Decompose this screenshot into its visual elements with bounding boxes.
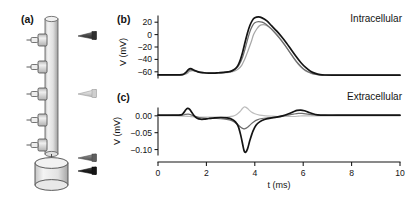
marker-proximal-gray	[78, 154, 97, 162]
panel-c-label: (c)	[117, 91, 130, 103]
soma-cylinder	[35, 154, 68, 190]
electrode-array	[27, 34, 48, 151]
panel-c-tick-label: −0.10	[130, 145, 152, 155]
x-tick-label: 4	[252, 168, 257, 178]
panel-c-y-ticks: 0.00−0.05−0.10	[130, 111, 158, 155]
electrode-3	[27, 88, 48, 100]
trace-mid-gray	[158, 22, 400, 76]
panel-b-label: (b)	[117, 13, 130, 25]
marker-mid-light	[78, 90, 97, 98]
extracellular-annotation: Extracellular	[347, 91, 403, 102]
marker-distal-dark	[78, 32, 97, 40]
trace-soma-black	[158, 17, 400, 75]
panel-c-tick-label: 0.00	[135, 111, 152, 121]
x-tick-label: 0	[156, 168, 161, 178]
electrode-2	[27, 61, 48, 73]
panel-b-tick-label: −40	[137, 54, 152, 64]
panel-a: (a)	[21, 13, 97, 190]
x-tick-label: 6	[301, 168, 306, 178]
panel-b-tick-label: −60	[137, 67, 152, 77]
panel-b-tick-label: 20	[142, 17, 152, 27]
marker-soma-black	[78, 167, 97, 175]
neuron-recording-figure: (a)	[0, 0, 410, 199]
electrode-5	[27, 139, 48, 151]
shared-x-ticks: 0246810	[156, 162, 405, 178]
figure-svg: (a)	[0, 0, 410, 199]
x-tick-label: 10	[395, 168, 405, 178]
panel-a-label: (a)	[21, 13, 34, 25]
panel-b: (b) V (mV) 200−20−40−60 Intracellular	[117, 13, 403, 78]
electrode-1	[27, 34, 48, 46]
trace-soma-black	[158, 108, 400, 152]
x-axis-label: t (ms)	[268, 180, 291, 190]
electrode-4	[27, 114, 48, 126]
panel-b-tick-label: −20	[137, 42, 152, 52]
intracellular-annotation: Intracellular	[350, 13, 402, 24]
panel-c-traces	[158, 107, 400, 152]
panel-b-y-ticks: 200−20−40−60	[137, 17, 158, 77]
panel-c-tick-label: −0.05	[130, 128, 152, 138]
x-tick-label: 2	[204, 168, 209, 178]
panel-c: (c) V (mV) 0.00−0.05−0.10 Extracellular …	[112, 91, 405, 190]
x-tick-label: 8	[349, 168, 354, 178]
panel-b-traces	[158, 17, 400, 75]
panel-c-y-axis-label: V (mV)	[112, 117, 122, 145]
panel-b-y-axis-label: V (mV)	[118, 38, 128, 66]
trace-distal-light-gray	[158, 25, 400, 76]
panel-b-tick-label: 0	[147, 30, 152, 40]
